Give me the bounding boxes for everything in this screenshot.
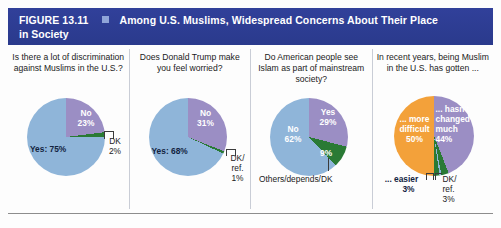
pie-2-dk-line2: ref. bbox=[231, 163, 243, 173]
pie-1-label-dk: DK 2% bbox=[104, 136, 126, 156]
figure-title-line2: in Society bbox=[19, 27, 483, 41]
pie-3-other-leader bbox=[328, 158, 329, 171]
pie-2-label-dk: DK/ ref. 1% bbox=[226, 153, 250, 183]
panels-row: Is there a lot of discrimination against… bbox=[8, 49, 493, 209]
panel-question-1: Is there a lot of discrimination against… bbox=[8, 52, 129, 86]
pie-3-yes-value: 29% bbox=[320, 117, 337, 127]
panel-question-2: Does Donald Trump make you feel worried? bbox=[130, 52, 251, 86]
figure-number: FIGURE 13.11 bbox=[19, 14, 88, 26]
pie-2-dk-line1: DK/ bbox=[231, 153, 245, 163]
pie-4-label-changed: ... hasn't changed much 44% bbox=[436, 104, 470, 144]
figure-container: FIGURE 13.11Among U.S. Muslims, Widespre… bbox=[0, 0, 501, 228]
pie-3-label-yes: Yes 29% bbox=[313, 107, 343, 127]
pie-2-label-no: No 31% bbox=[191, 108, 221, 128]
pie-3-yes-name: Yes bbox=[321, 107, 335, 117]
pie-4-dk-value: 3% bbox=[443, 194, 455, 204]
pie-4-difficult-line1: ... more bbox=[400, 114, 430, 124]
pie-2-label-yes: Yes: 68% bbox=[152, 146, 188, 156]
pie-4-changed-line3: much bbox=[436, 124, 458, 134]
pie-4-difficult-line2: difficult bbox=[399, 124, 429, 134]
pie-4-dk-line1: DK/ bbox=[443, 174, 457, 184]
pie-1-label-no: No 23% bbox=[71, 108, 101, 128]
pie-4-easier-name: ... easier bbox=[385, 174, 419, 184]
pie-3-label-other-name: Others/depends/DK bbox=[259, 174, 333, 184]
pie-2-dk-value: 1% bbox=[231, 173, 243, 183]
pie-4-changed-line1: ... hasn't bbox=[436, 104, 470, 114]
pie-4-easier-value: 3% bbox=[402, 184, 414, 194]
pie-1-no-value: 23% bbox=[78, 118, 95, 128]
pie-4-label-easier: ... easier 3% bbox=[378, 174, 426, 194]
figure-header-line1: FIGURE 13.11Among U.S. Muslims, Widespre… bbox=[19, 13, 483, 27]
pie-1-dk-name: DK bbox=[109, 136, 121, 146]
pie-4-dk-leader bbox=[435, 173, 442, 180]
header-square-icon bbox=[102, 16, 109, 23]
pie-wrap-3: Yes 29% No 62% 9% Others/depends/DK bbox=[251, 86, 372, 204]
pie-1-dk-value: 2% bbox=[109, 146, 121, 156]
pie-2-no-name: No bbox=[200, 108, 211, 118]
pie-3-label-no: No 62% bbox=[278, 124, 308, 144]
pie-4-difficult-value: 50% bbox=[406, 134, 423, 144]
pie-4-changed-line2: changed bbox=[436, 114, 470, 124]
pie-wrap-4: ... hasn't changed much 44% ... more dif… bbox=[373, 86, 494, 204]
pie-4-dk-line2: ref. bbox=[443, 184, 455, 194]
panel-mainstream-society: Do American people see Islam as part of … bbox=[250, 49, 372, 209]
pie-1-label-yes: Yes: 75% bbox=[30, 144, 66, 154]
pie-4-easier-leader bbox=[426, 173, 434, 180]
pie-3-label-other-value: 9% bbox=[320, 148, 332, 158]
pie-wrap-2: No 31% Yes: 68% DK/ ref. 1% bbox=[130, 86, 251, 204]
panel-discrimination: Is there a lot of discrimination against… bbox=[8, 49, 129, 209]
figure-header: FIGURE 13.11Among U.S. Muslims, Widespre… bbox=[8, 8, 493, 45]
panel-trump-worried: Does Donald Trump make you feel worried?… bbox=[129, 49, 251, 209]
panel-question-4: In recent years, being Muslim in the U.S… bbox=[373, 52, 494, 86]
pie-4-label-difficult: ... more difficult 50% bbox=[395, 114, 435, 144]
panel-being-muslim: In recent years, being Muslim in the U.S… bbox=[372, 49, 494, 209]
pie-3-no-name: No bbox=[287, 124, 298, 134]
pie-4-changed-value: 44% bbox=[436, 134, 453, 144]
pie-3-no-value: 62% bbox=[285, 134, 302, 144]
pie-2-no-value: 31% bbox=[197, 118, 214, 128]
bottom-rule bbox=[8, 213, 493, 214]
pie-wrap-1: No 23% Yes: 75% DK 2% bbox=[8, 86, 129, 204]
pie-1-no-name: No bbox=[80, 108, 91, 118]
pie-4-label-dk: DK/ ref. 3% bbox=[443, 174, 457, 204]
panel-question-3: Do American people see Islam as part of … bbox=[251, 52, 372, 86]
figure-title-line1: Among U.S. Muslims, Widespread Concerns … bbox=[119, 14, 438, 26]
